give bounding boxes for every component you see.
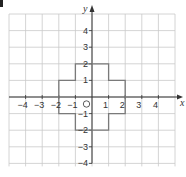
x-tick-label: 1: [103, 100, 108, 110]
y-tick-label: −4: [78, 158, 88, 168]
y-tick-label: 3: [83, 42, 88, 52]
coordinate-grid-chart: −4−3−2−112344321−1−2−3−4xy: [0, 0, 186, 177]
axes: [9, 5, 183, 163]
y-tick-label: −1: [78, 109, 88, 119]
x-tick-label: −1: [67, 100, 77, 110]
x-tick-label: −3: [34, 100, 44, 110]
origin-label: [83, 101, 89, 107]
x-axis-label: x: [179, 97, 185, 108]
x-tick-label: −2: [51, 100, 61, 110]
x-tick-label: 2: [120, 100, 125, 110]
y-tick-label: −3: [78, 142, 88, 152]
y-axis-arrow-icon: [90, 5, 95, 12]
y-axis-label: y: [82, 3, 88, 14]
y-tick-label: 1: [83, 75, 88, 85]
y-tick-label: 4: [83, 26, 88, 36]
y-tick-label: −2: [78, 125, 88, 135]
x-tick-label: 4: [153, 100, 158, 110]
y-tick-label: 2: [83, 59, 88, 69]
x-tick-label: 3: [136, 100, 141, 110]
x-tick-label: −4: [17, 100, 27, 110]
